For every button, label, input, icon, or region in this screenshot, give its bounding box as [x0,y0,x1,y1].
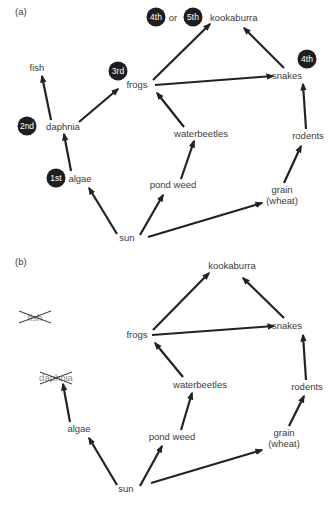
node-daphnia-removed: daphnia [39,372,74,384]
arrow-sun-to-pondweed [140,195,163,235]
node-daphnia: daphnia [46,121,81,132]
node-rodents: rodents [291,381,323,392]
arrow-pondweed-to-waterbeetles [181,393,192,430]
badge-kookaburra-4th: 4th [147,8,166,27]
arrow-algae-to-daphnia [63,384,70,422]
node-pond-weed: pond weed [150,179,196,190]
node-grain-wheat: (wheat) [266,195,298,206]
arrow-daphnia-to-frogs [79,89,118,122]
arrow-sun-to-grain [148,203,262,237]
arrow-waterbeetles-to-frogs [155,343,183,377]
or-label: or [169,12,177,23]
node-pond-weed: pond weed [149,431,195,442]
node-algae: algae [67,423,90,434]
badge-frogs-3rd: 3rd [109,62,128,81]
arrow-sun-to-algae [89,438,117,485]
arrow-rodents-to-snakes [303,84,306,129]
panel-label-a: (a) [15,6,27,17]
arrow-daphnia-to-fish [42,76,51,120]
arrow-rodents-to-snakes [303,335,306,380]
node-kookaburra: kookaburra [208,260,256,271]
panel-b: (b) fish daphnia kookaburra frogs [15,256,323,494]
node-fish: fish [30,62,45,73]
arrow-grain-to-rodents [284,146,301,183]
arrow-snakes-to-kookaburra [243,278,284,318]
arrow-grain-to-rodents [289,396,304,426]
node-grain-wheat: (wheat) [268,438,300,449]
node-sun: sun [119,232,134,243]
arrow-frogs-to-snakes [155,76,273,85]
arrow-frogs-to-kookaburra [153,273,209,330]
node-rodents: rodents [292,130,324,141]
node-sun: sun [118,483,133,494]
panel-a: (a) 4th or 5th 3rd [15,6,324,243]
panel-label-b: (b) [15,256,27,267]
node-fish-removed: fish [19,311,51,323]
arrow-algae-to-daphnia [64,134,71,171]
node-algae: algae [68,173,91,184]
svg-text:4th: 4th [150,12,162,22]
node-frogs: frogs [126,79,147,90]
node-grain: grain [271,184,292,195]
badge-kookaburra-5th: 5th [184,8,203,27]
arrow-sun-to-grain [151,450,262,483]
svg-text:3rd: 3rd [112,66,125,76]
svg-text:4th: 4th [301,54,313,64]
arrow-waterbeetles-to-frogs [157,93,184,127]
node-snakes: snakes [272,320,302,331]
node-waterbeetles: waterbeetles [172,379,227,390]
node-kookaburra: kookaburra [210,12,258,23]
arrow-frogs-to-snakes [152,326,274,335]
badge-algae-1st: 1st [47,169,66,188]
node-waterbeetles: waterbeetles [173,128,228,139]
node-grain: grain [273,427,294,438]
arrow-snakes-to-kookaburra [244,28,284,68]
arrow-sun-to-algae [89,188,117,234]
svg-text:1st: 1st [50,173,62,183]
arrow-frogs-to-kookaburra [153,24,210,80]
node-snakes: snakes [272,70,302,81]
badge-daphnia-2nd: 2nd [18,117,37,136]
arrow-pondweed-to-waterbeetles [181,141,194,179]
badge-snakes-4th: 4th [298,50,317,69]
food-web-diagram: (a) 4th or 5th 3rd [0,0,334,505]
svg-text:2nd: 2nd [20,121,34,131]
svg-text:5th: 5th [187,12,199,22]
node-frogs: frogs [126,329,147,340]
